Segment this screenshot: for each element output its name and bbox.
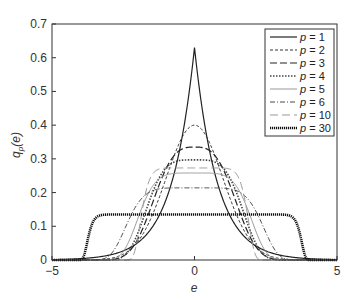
y-tick-label: 0.1 [30,219,47,233]
y-tick-label: 0.7 [30,17,47,31]
y-axis-label: qp(e) [9,132,25,158]
legend-label-p-3: p = 3 [299,57,325,69]
curve-p-2 [52,125,337,260]
x-tick-label: −5 [45,264,59,278]
x-axis-label: e [191,281,198,295]
legend-label-p-10: p = 10 [299,109,331,121]
legend-label-p-5: p = 5 [299,83,325,95]
curve-p-5 [52,173,337,260]
legend-label-p-2: p = 2 [299,44,325,56]
legend-label-p-1: p = 1 [299,31,325,43]
legend-label-p-6: p = 6 [299,96,325,108]
legend-label-p-30: p = 30 [299,122,331,134]
y-tick-label: 0.2 [30,186,47,200]
legend-label-p-4: p = 4 [299,70,325,82]
y-tick-label: 0.6 [30,51,47,65]
curve-p-10 [52,168,337,260]
chart: 00.10.20.30.40.50.60.7 −505 e qp(e) p = … [0,0,356,300]
x-tick-label: 0 [191,264,198,278]
curve-p-3 [52,147,337,260]
legend: p = 1p = 2p = 3p = 4p = 5p = 6p = 10p = … [265,29,334,136]
y-tick-label: 0.4 [30,118,47,132]
svg-text:qp(e): qp(e) [9,132,25,158]
curve-p-30 [52,214,337,260]
x-tick-label: 5 [334,264,341,278]
y-tick-label: 0.5 [30,84,47,98]
curve-p-4 [52,160,337,260]
curve-p-6 [52,188,337,260]
y-tick-label: 0.3 [30,152,47,166]
